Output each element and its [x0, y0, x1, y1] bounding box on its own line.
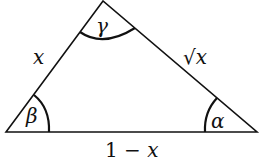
base-var: x [147, 138, 158, 162]
angle-label-alpha: α [211, 109, 225, 133]
angle-label-beta: β [25, 104, 38, 128]
base-number: 1 − [105, 138, 147, 162]
radicand: x [196, 45, 207, 69]
side-label-base: 1 − x [105, 138, 158, 162]
triangle-diagram: γ β α x √x 1 − x [0, 0, 264, 166]
radical-sign: √ [183, 45, 196, 69]
side-label-left: x [33, 45, 44, 69]
angle-label-gamma: γ [96, 14, 108, 38]
side-label-right: √x [183, 45, 207, 69]
